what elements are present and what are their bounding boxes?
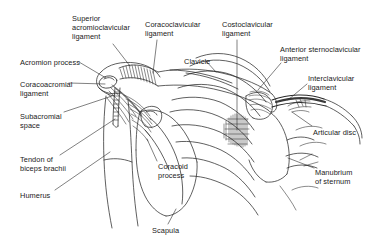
label-coracoid-process: Coracoidprocess	[158, 162, 188, 180]
label-line: space	[20, 121, 62, 130]
label-superior-acromioclavicular-ligament: Superioracromioclavicularligament	[72, 14, 130, 42]
label-acromion-process: Acromion process	[20, 58, 80, 67]
label-line: Manubrium	[315, 168, 352, 177]
articular-disc-detail	[288, 99, 311, 112]
rib-cage	[170, 54, 270, 216]
label-line: ligament	[20, 89, 72, 98]
leader-line-anterior-sternoclavicular-ligament	[258, 63, 281, 90]
label-interclavicular-ligament: Interclavicularligament	[308, 74, 354, 92]
opposite-clavicle	[324, 99, 362, 144]
label-line: Subacromial	[20, 112, 62, 121]
label-subacromial-space: Subacromialspace	[20, 112, 62, 130]
label-line: ligament	[72, 32, 130, 41]
label-line: process	[158, 171, 188, 180]
label-line: of sternum	[315, 177, 352, 186]
costoclavicular-ligament-shading	[224, 114, 249, 147]
label-costoclavicular-ligament: Costoclavicularligament	[222, 20, 273, 38]
label-line: Articular disc	[313, 128, 356, 137]
label-line: Tendon of	[20, 155, 66, 164]
label-articular-disc: Articular disc	[313, 128, 356, 137]
label-line: Coracoclavicular	[145, 20, 200, 29]
label-line: Costoclavicular	[222, 20, 273, 29]
leader-line-scapula	[168, 209, 176, 224]
label-line: Interclavicular	[308, 74, 354, 83]
label-manubrium-of-sternum: Manubriumof sternum	[315, 168, 352, 186]
label-line: Anterior sternoclavicular	[280, 45, 361, 54]
leader-line-articular-disc	[292, 112, 312, 126]
label-line: Coracoid	[158, 162, 188, 171]
label-line: ligament	[280, 54, 361, 63]
label-coracoacromial-ligament: Coracoacromialligament	[20, 80, 72, 98]
label-coracoclavicular-ligament: Coracoclavicularligament	[145, 20, 200, 38]
label-clavicle: Clavicle	[184, 57, 210, 66]
coracoacromial-ligament-shading	[107, 85, 142, 124]
label-line: ligament	[145, 29, 200, 38]
label-line: ligament	[308, 83, 354, 92]
manubrium-outline	[249, 113, 318, 182]
label-line: Coracoacromial	[20, 80, 72, 89]
label-line: Humerus	[20, 191, 50, 200]
label-line: ligament	[222, 29, 273, 38]
leader-line-coracoacromial-ligament	[69, 83, 105, 84]
leader-line-coracoclavicular-ligament	[153, 40, 157, 73]
clavicle-outline	[158, 69, 277, 112]
leader-line-tendon-of-biceps-brachii	[60, 119, 115, 155]
coracoid-process-outline	[141, 106, 162, 127]
leader-line-acromion-process	[79, 62, 106, 78]
label-line: biceps brachii	[20, 164, 66, 173]
anatomical-figure: SuperioracromioclavicularligamentCoracoc…	[0, 0, 382, 245]
label-humerus: Humerus	[20, 191, 50, 200]
label-line: Superior	[72, 14, 130, 23]
acromion-outline	[97, 62, 160, 96]
label-anterior-sternoclavicular-ligament: Anterior sternoclavicularligament	[280, 45, 361, 63]
label-scapula: Scapula	[152, 226, 179, 235]
label-line: acromioclavicular	[72, 23, 130, 32]
label-line: Acromion process	[20, 58, 80, 67]
label-line: Scapula	[152, 226, 179, 235]
interclavicular-ligament	[272, 95, 326, 107]
leader-line-coracoid-process	[147, 139, 157, 161]
label-tendon-of-biceps-brachii: Tendon ofbiceps brachii	[20, 155, 66, 173]
label-line: Clavicle	[184, 57, 210, 66]
